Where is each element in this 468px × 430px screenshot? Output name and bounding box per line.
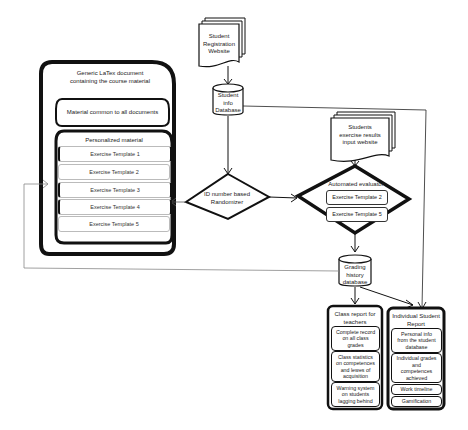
exercise-template-5: Exercise Template 5: [58, 216, 170, 232]
student-report-item-grades: Individual grades and competences achiev…: [391, 353, 442, 383]
exercise-template-4: Exercise Template 4: [58, 199, 172, 215]
class-report-item-warning: Warning system on students lagging behin…: [331, 382, 380, 407]
class-report-item-statistics: Class statistics on competences and lewe…: [331, 351, 380, 382]
grading-db-label: Grading history database: [339, 264, 371, 287]
randomizer-label: ID number based Randomizer: [196, 191, 258, 206]
class-report-title: Class report for teachers: [328, 311, 382, 326]
personalized-material-title: Personalized material: [56, 137, 172, 145]
evaluator-title: Automated evaluator: [325, 181, 387, 189]
registration-website: Student Registration Website: [200, 33, 238, 56]
latex-document-title: Generic LaTex document containing the co…: [50, 70, 170, 85]
evaluator-template-5: Exercise Template 5: [326, 207, 388, 222]
exercise-template-1: Exercise Template 1: [58, 146, 172, 162]
exercise-template-3: Exercise Template 3: [58, 182, 172, 198]
student-report-item-personal-info: Personal info from the student database: [391, 328, 442, 353]
registration-website-label: Student Registration Website: [203, 33, 235, 54]
student-report-title: Individual Student Report: [388, 313, 444, 328]
class-report-item-grades: Complete record on all class grades: [331, 326, 380, 351]
student-report-item-gamification: Gamification: [391, 396, 442, 407]
student-report-item-timeline: Work timeline: [391, 384, 442, 395]
exercise-template-2: Exercise Template 2: [58, 164, 170, 180]
evaluator-template-2: Exercise Template 2: [326, 190, 388, 205]
student-info-db-label: Student info Database: [215, 92, 241, 113]
results-website-label: Students exercise results input website: [332, 124, 388, 147]
student-info-database: Student info Database: [213, 92, 243, 115]
common-material-label: Material common to all documents: [56, 109, 169, 117]
